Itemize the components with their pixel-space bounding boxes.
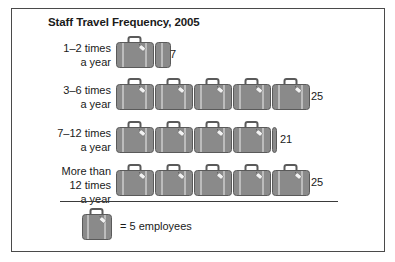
row-label: 3–6 times a year — [63, 83, 111, 111]
suitcase-icon — [116, 121, 154, 153]
suitcase-icon — [233, 121, 271, 153]
row-label: 7–12 times a year — [57, 126, 111, 154]
suitcase-group — [116, 164, 311, 196]
suitcase-icon — [116, 36, 154, 68]
suitcase-icon — [155, 78, 193, 110]
suitcase-icon — [233, 164, 271, 196]
suitcase-icon — [82, 208, 112, 240]
suitcase-group — [116, 121, 278, 153]
row-label: 1–2 times a year — [63, 41, 111, 69]
suitcase-icon-partial — [155, 36, 171, 68]
legend-divider — [60, 201, 338, 202]
row-value: 7 — [170, 48, 176, 60]
legend-suitcase-icon — [82, 208, 113, 240]
suitcase-icon — [155, 121, 193, 153]
row-value: 25 — [311, 176, 323, 188]
suitcase-icon — [194, 121, 232, 153]
suitcase-icon — [194, 78, 232, 110]
suitcase-icon-partial — [272, 121, 277, 153]
suitcase-group — [116, 36, 172, 68]
suitcase-icon — [272, 164, 310, 196]
legend-text: = 5 employees — [120, 220, 192, 232]
suitcase-icon — [233, 78, 271, 110]
row-value: 25 — [311, 90, 323, 102]
suitcase-icon — [116, 164, 154, 196]
suitcase-icon — [116, 78, 154, 110]
row-label: More than 12 times a year — [61, 164, 111, 206]
chart-title: Staff Travel Frequency, 2005 — [48, 16, 200, 28]
row-value: 21 — [280, 133, 292, 145]
suitcase-icon — [272, 78, 310, 110]
suitcase-icon — [194, 164, 232, 196]
suitcase-group — [116, 78, 311, 110]
suitcase-icon — [155, 164, 193, 196]
